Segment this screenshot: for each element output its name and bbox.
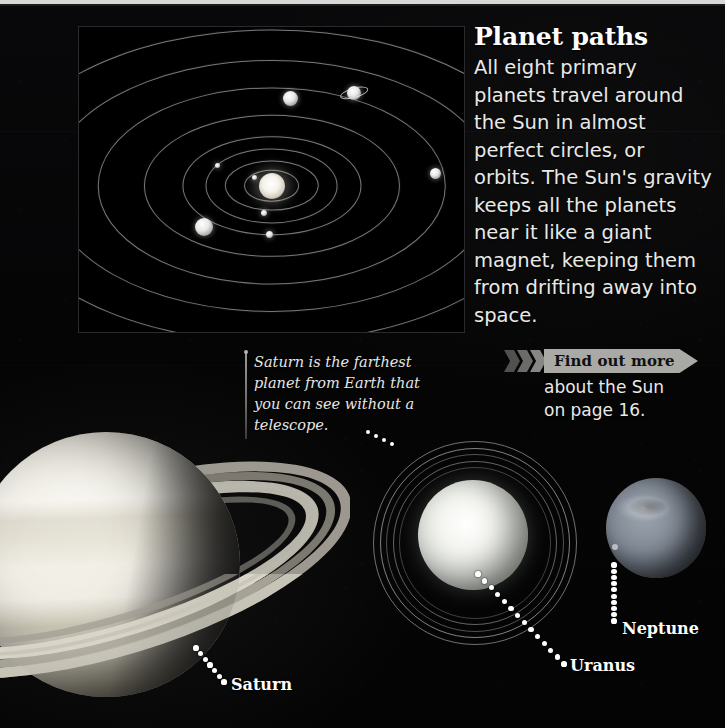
leader-dot	[611, 606, 616, 611]
neptune-label: Neptune	[622, 619, 699, 638]
leader-dot	[548, 648, 553, 653]
page-root: Planet paths All eight primary planets t…	[0, 0, 725, 728]
diagram-venus	[261, 210, 267, 216]
page-title: Planet paths	[474, 22, 712, 52]
neptune-body	[606, 478, 706, 578]
find-out-more-callout[interactable]: Find out more about the Sun on page 16.	[504, 349, 704, 422]
top-edge-shadow	[0, 4, 725, 6]
find-out-more-header[interactable]: Find out more	[504, 349, 704, 373]
leader-dot	[611, 600, 616, 605]
diagram-sun	[259, 173, 285, 199]
find-out-more-tag[interactable]: Find out more	[544, 349, 698, 373]
leader-dot	[561, 661, 566, 666]
article-block: Planet paths All eight primary planets t…	[474, 22, 712, 329]
uranus-label: Uranus	[570, 656, 635, 675]
saturn-label: Saturn	[231, 675, 292, 694]
saturn-photo	[0, 418, 350, 718]
leader-dot	[611, 612, 616, 617]
chevron-right-icon	[504, 350, 520, 372]
uranus-photo	[372, 438, 578, 648]
diagram-uranus	[347, 86, 361, 100]
find-out-more-label: Find out more	[544, 352, 675, 370]
leader-dot	[611, 594, 616, 599]
diagram-neptune	[430, 168, 441, 179]
uranus-body	[418, 480, 528, 590]
solar-system-diagram	[78, 26, 465, 333]
neptune-photo	[600, 472, 720, 592]
article-body: All eight primary planets travel around …	[474, 54, 712, 329]
leader-dot	[555, 654, 560, 659]
diagram-earth	[266, 231, 273, 238]
find-out-more-line2: on page 16.	[544, 399, 704, 422]
leader-dot	[611, 618, 616, 623]
neptune-moonlet	[612, 544, 618, 550]
find-out-more-subtext: about the Sun on page 16.	[544, 376, 704, 422]
diagram-jupiter	[195, 218, 213, 236]
find-out-more-line1: about the Sun	[544, 376, 704, 399]
